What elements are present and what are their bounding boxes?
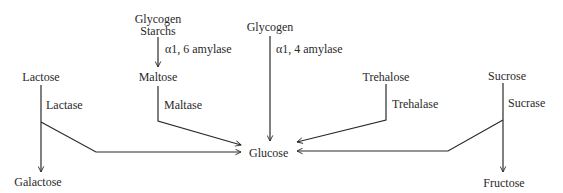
enzyme-sucrase: Sucrase xyxy=(508,97,545,109)
node-glycogen-starchs-line2: Starchs xyxy=(140,25,175,37)
enzyme-lactase: Lactase xyxy=(46,99,83,111)
arrow-maltose-to-glucose xyxy=(158,86,241,145)
node-maltose: Maltose xyxy=(139,71,178,83)
enzyme-alpha14-amylase: α1, 4 amylase xyxy=(276,43,343,55)
arrow-lactose-to-glucose xyxy=(41,122,241,152)
node-lactose: Lactose xyxy=(22,71,59,83)
arrow-sucrose-to-glucose xyxy=(297,120,503,151)
node-glycogen: Glycogen xyxy=(247,21,294,33)
node-glucose: Glucose xyxy=(249,147,288,159)
enzyme-maltase: Maltase xyxy=(164,99,202,111)
arrow-trehalose-to-glucose xyxy=(297,84,386,142)
node-fructose: Fructose xyxy=(483,177,524,189)
enzyme-alpha16-amylase: α1, 6 amylase xyxy=(165,43,232,55)
node-sucrose: Sucrose xyxy=(488,70,526,82)
carbohydrate-digestion-diagram: Glycogen Starchs Maltose Glycogen Lactos… xyxy=(0,0,563,193)
enzyme-trehalase: Trehalase xyxy=(392,98,438,110)
node-trehalose: Trehalose xyxy=(363,71,410,83)
node-galactose: Galactose xyxy=(14,176,61,188)
